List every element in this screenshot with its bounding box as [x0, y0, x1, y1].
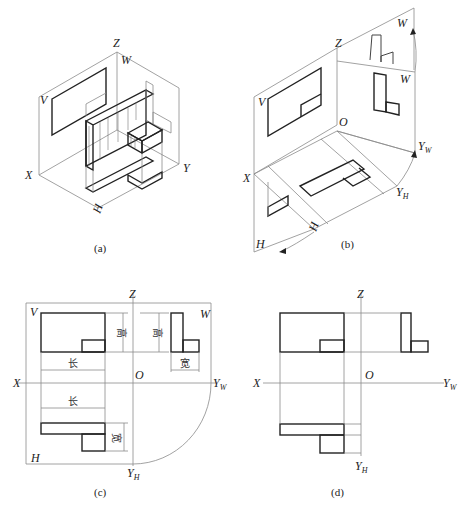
label-h: H	[89, 201, 106, 216]
label-x: X	[24, 168, 33, 182]
label-z: Z	[129, 287, 136, 301]
label-x: X	[252, 376, 261, 390]
label-w-top: W	[397, 16, 408, 30]
panel-a-isometric: Z W V X Y H (a)	[24, 36, 191, 255]
label-w: W	[400, 72, 411, 86]
label-x: X	[12, 376, 21, 390]
label-o: O	[339, 115, 348, 129]
label-v: V	[30, 305, 39, 319]
label-z: Z	[113, 36, 120, 50]
label-w: W	[200, 307, 211, 321]
label-yw: YW	[213, 376, 228, 392]
label-z: Z	[357, 287, 364, 301]
caption-d: (d)	[331, 486, 344, 499]
label-h: H	[255, 237, 266, 251]
label-v: V	[258, 95, 267, 109]
panel-d-three-views: Z O X YW YH (d)	[252, 287, 458, 499]
label-w: W	[121, 53, 132, 67]
label-yh: YH	[355, 459, 369, 475]
dim-height-front: 高	[116, 328, 128, 338]
panel-c-unfolded-views: 高 高 宽 长 长 宽 Z V W O X YW H YH (c)	[12, 287, 228, 499]
dim-width-side: 宽	[180, 357, 190, 369]
label-yw: YW	[443, 376, 458, 392]
dim-length-top: 长	[68, 396, 78, 407]
dim-width-top: 宽	[111, 433, 123, 443]
projection-diagram: Z W V X Y H (a)	[0, 0, 467, 518]
label-v: V	[40, 93, 49, 107]
label-z: Z	[335, 36, 342, 50]
dim-length-front: 长	[68, 358, 78, 369]
caption-a: (a)	[94, 242, 107, 255]
dim-height-side: 高	[152, 328, 164, 338]
label-h: H	[30, 451, 41, 465]
label-yh: YH	[396, 185, 410, 201]
label-o: O	[365, 368, 374, 382]
label-yw: YW	[418, 139, 433, 155]
label-x: X	[242, 171, 251, 185]
panel-b-unfolding: Z W W V O X YW YH H H (b)	[242, 8, 433, 254]
label-o: O	[135, 368, 144, 382]
label-yh: YH	[127, 466, 141, 482]
label-y: Y	[183, 161, 191, 175]
caption-b: (b)	[341, 238, 354, 251]
caption-c: (c)	[94, 486, 107, 499]
